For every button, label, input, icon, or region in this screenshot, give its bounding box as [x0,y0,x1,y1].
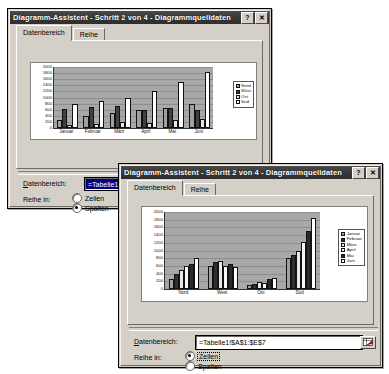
legend-label: Süd [241,100,249,104]
legend-item: Süd [236,100,251,105]
radio-zeilen-2-dot[interactable] [185,351,195,361]
legend-swatch [341,243,345,247]
radio-zeilen-2-label: Zeilen [198,353,219,360]
y-axis-tick: 400 [45,114,52,118]
chart-bar [178,82,183,128]
data-range-label-2: Datenbereich: [134,338,178,345]
y-axis-tick: 1400 [43,83,52,87]
radio-spalten-1-dot[interactable] [72,203,82,213]
chart-bar [233,267,238,289]
chart-bar [194,258,199,289]
gridline [165,227,320,228]
radio-zeilen-2[interactable]: Zeilen [185,351,219,361]
y-axis-tick: 0 [50,126,52,130]
x-axis-tick: April [141,130,150,135]
chart-preview-2: 0200400600800100012001400160018002000Nor… [141,206,368,302]
legend-swatch [236,84,240,88]
legend-swatch [341,259,345,263]
close-button-2[interactable]: ✕ [366,167,379,179]
y-axis-tick: 2000 [43,65,52,69]
x-axis-tick: Mai [169,130,176,135]
legend-swatch [236,95,240,99]
gridline [54,98,213,99]
chart-2-canvas: 0200400600800100012001400160018002000Nor… [142,207,367,301]
close-button[interactable]: ✕ [255,12,268,24]
gridline [54,73,213,74]
y-axis-tick: 0 [161,287,163,291]
x-axis-tick: Ost [257,291,264,296]
legend-swatch [236,100,240,104]
tab-datenbereich-2[interactable]: Datenbereich [127,180,183,196]
legend-label: April [347,248,356,252]
range-picker-icon[interactable] [360,336,376,349]
radio-spalten-1[interactable]: Spalten [72,203,109,213]
gridline [54,67,213,68]
legend-swatch [236,90,240,94]
y-axis-tick: 1200 [154,241,163,245]
radio-zeilen-1[interactable]: Zeilen [72,193,104,203]
chart-bar [205,72,210,128]
series-in-label-1: Reihe in: [23,196,51,203]
radio-spalten-1-label: Spalten [85,205,109,212]
radio-zeilen-1-dot[interactable] [72,193,82,203]
data-range-label-1: Datenbereich: [23,180,67,187]
y-axis-tick: 600 [45,108,52,112]
chart-bar [72,104,77,128]
c2-plot-area: 0200400600800100012001400160018002000 [164,212,320,290]
chart-bar [152,91,157,128]
y-axis-tick: 800 [45,101,52,105]
legend-swatch [341,248,345,252]
y-axis-tick: 1400 [154,233,163,237]
chart-bar [272,278,277,289]
radio-spalten-2-dot[interactable] [185,361,195,371]
chart-wizard-window-2[interactable]: Diagramm-Assistent - Schritt 2 von 4 - D… [118,163,383,368]
window-2-title-bar[interactable]: Diagramm-Assistent - Schritt 2 von 4 - D… [121,166,380,179]
gridline [54,91,213,92]
y-axis-tick: 2000 [154,210,163,214]
chart-bar [125,98,130,129]
radio-spalten-2-label: Spalten [198,363,222,370]
window-1-title-bar[interactable]: Diagramm-Assistent - Schritt 2 von 4 - D… [10,11,269,24]
data-range-input-2[interactable]: =Tabelle1!$A$1:$E$7 [196,336,362,349]
help-button-2[interactable]: ? [352,167,365,179]
x-axis-tick: West [217,291,227,296]
x-axis-tick: März [114,130,124,135]
y-axis-tick: 800 [156,256,163,260]
chart-bar [99,101,104,128]
legend-item: Juni [341,258,362,263]
c1-plot-area: 0200400600800100012001400160018002000 [53,67,213,129]
y-axis-tick: 1600 [154,225,163,229]
data-range-value-2: =Tabelle1!$A$1:$E$7 [199,339,266,346]
help-button[interactable]: ? [241,12,254,24]
gridline [165,220,320,221]
x-axis-tick: Süd [296,291,304,296]
y-axis-tick: 200 [45,120,52,124]
gridline [165,235,320,236]
chart-bar [311,218,316,289]
c1-legend: NordWestOstSüd [233,81,254,108]
radio-spalten-2[interactable]: Spalten [185,361,222,371]
tab-datenbereich[interactable]: Datenbereich [16,25,72,41]
y-axis-tick: 1800 [154,218,163,222]
legend-label: Juni [347,259,355,263]
x-axis-tick: Nord [178,291,188,296]
radio-zeilen-1-label: Zeilen [85,195,104,202]
y-axis-tick: 400 [156,271,163,275]
series-in-label-2: Reihe in: [134,354,162,361]
x-axis-tick: Juni [195,130,203,135]
chart-1-canvas: 0200400600800100012001400160018002000Jan… [31,63,256,139]
y-axis-tick: 1800 [43,71,52,75]
gridline [165,212,320,213]
window-1-tab-strip[interactable]: Datenbereich Reihe [16,27,261,41]
window-2-separator [129,327,378,331]
c2-legend: JanuarFebruarMärzAprilMaiJuni [338,229,365,266]
y-axis-tick: 1600 [43,77,52,81]
y-axis-tick: 1000 [154,248,163,252]
y-axis-tick: 1000 [43,95,52,99]
x-axis-tick: Februar [85,130,101,135]
y-axis-tick: 1200 [43,89,52,93]
window-2-tab-strip[interactable]: Datenbereich Reihe [127,182,372,196]
window-2-title: Diagramm-Assistent - Schritt 2 von 4 - D… [124,168,351,177]
chart-preview-1: 0200400600800100012001400160018002000Jan… [30,62,257,140]
legend-swatch [341,232,345,236]
